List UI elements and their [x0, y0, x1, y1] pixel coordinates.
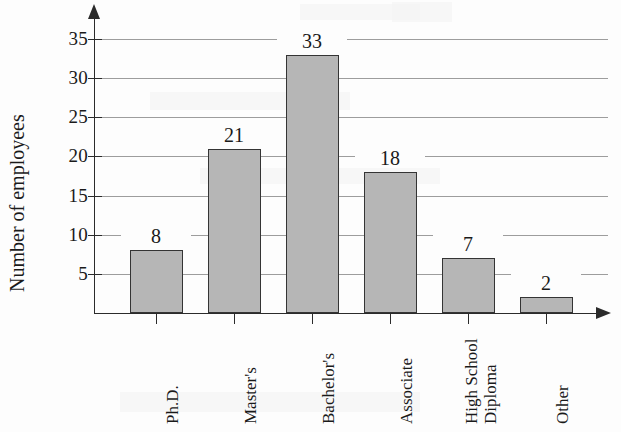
- xtick-label-other: Other: [554, 385, 572, 424]
- ytick-mark-15: [88, 196, 102, 197]
- xtick-label-bachelors: Bachelor's: [320, 353, 338, 424]
- ytick-label-30: 30: [52, 68, 88, 87]
- y-axis-line: [94, 16, 95, 314]
- ytick-mark-25: [88, 117, 102, 118]
- bar-ph-d: [130, 250, 183, 313]
- bar-high-school: [442, 258, 495, 313]
- ytick-mark-20: [88, 156, 102, 157]
- bar-bachelors: [286, 55, 339, 313]
- bar-value-ph-d: 8: [121, 226, 191, 246]
- gridline-20: [95, 156, 608, 157]
- ytick-mark-5: [88, 274, 102, 275]
- xtick-label-associate: Associate: [398, 358, 416, 424]
- bar-value-associate: 18: [355, 148, 425, 168]
- bar-other: [520, 297, 573, 313]
- xtick-mark-bachelors: [312, 313, 313, 324]
- bar-masters: [208, 149, 261, 313]
- ytick-label-5: 5: [52, 264, 88, 283]
- ytick-label-35: 35: [52, 29, 88, 48]
- gridline-25: [95, 117, 608, 118]
- ytick-label-25: 25: [52, 107, 88, 126]
- y-axis-arrow-icon: [88, 4, 100, 19]
- ytick-label-10: 10: [52, 225, 88, 244]
- plot-area: 35 30 25 20 15 10 5 8 21 33 18 7 2 Ph.: [0, 0, 621, 432]
- x-axis-arrow-icon: [596, 307, 611, 319]
- bar-value-masters: 21: [199, 125, 269, 145]
- ytick-label-15: 15: [52, 186, 88, 205]
- xtick-mark-high-school: [468, 313, 469, 324]
- xtick-mark-other: [546, 313, 547, 324]
- ytick-mark-35: [88, 39, 102, 40]
- bar-value-other: 2: [511, 273, 581, 293]
- xtick-label-ph-d: Ph.D.: [164, 385, 182, 424]
- xtick-mark-associate: [390, 313, 391, 324]
- xtick-label-high-school: High School Diploma: [462, 339, 500, 424]
- gridline-35: [95, 39, 608, 40]
- ytick-label-20: 20: [52, 146, 88, 165]
- x-axis-line: [94, 313, 598, 314]
- xtick-label-masters: Master's: [242, 367, 260, 424]
- gridline-15: [95, 196, 608, 197]
- ytick-mark-10: [88, 235, 102, 236]
- ytick-mark-30: [88, 78, 102, 79]
- xtick-mark-masters: [234, 313, 235, 324]
- bar-associate: [364, 172, 417, 313]
- bar-value-high-school: 7: [433, 234, 503, 254]
- xtick-mark-ph-d: [156, 313, 157, 324]
- gridline-30: [95, 78, 608, 79]
- bar-chart-figure: 35 30 25 20 15 10 5 8 21 33 18 7 2 Ph.: [0, 0, 621, 432]
- y-axis-title: Number of employees: [6, 114, 28, 292]
- bar-value-bachelors: 33: [277, 31, 347, 51]
